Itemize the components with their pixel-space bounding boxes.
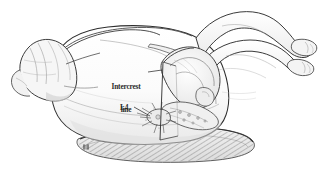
- anatomical-illustration: [0, 0, 321, 173]
- lower-foot: [287, 59, 313, 75]
- lumbar-puncture-figure: Intercrest line L4: [0, 0, 321, 173]
- acetabulum: [196, 87, 214, 106]
- label-intercrest-line-1: Intercrest: [105, 83, 147, 91]
- label-l4: L4: [120, 104, 128, 112]
- label-intercrest-line: Intercrest line: [105, 68, 147, 128]
